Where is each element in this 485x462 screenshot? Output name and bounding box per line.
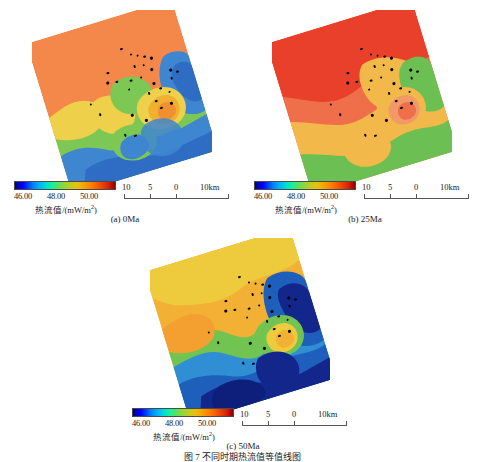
panel-b: 46.00 48.00 50.00 热流值/(mW/m2) 10 5 0 10k… [250, 6, 480, 236]
colorbar-gradient [132, 408, 234, 417]
panel-c-contour-surface [150, 238, 330, 413]
panel-b-scalebar: 10 5 0 10km [362, 182, 472, 200]
panel-a-contour-surface [32, 10, 212, 185]
panel-c-colorbar: 46.00 48.00 50.00 热流值/(mW/m2) [132, 408, 236, 442]
panel-a-caption: (a) 0Ma [10, 214, 240, 224]
scalebar-label-1: 5 [148, 182, 152, 192]
scalebar-ruler [362, 194, 472, 200]
scalebar-label-0: 10 [362, 182, 371, 192]
panel-c: 46.00 48.00 50.00 热流值/(mW/m2) 10 5 0 10k… [128, 236, 358, 458]
panel-c-scalebar: 10 5 0 10km [240, 409, 350, 427]
scalebar-label-3: 10km [318, 409, 337, 419]
panel-b-map [272, 10, 452, 185]
scalebar-labels: 10 5 0 10km [122, 182, 232, 193]
scalebar-label-3: 10km [440, 182, 459, 192]
colorbar-ticks: 46.00 48.00 50.00 [132, 418, 236, 430]
colorbar-tick-1: 48.00 [47, 191, 65, 201]
panel-a: 46.00 48.00 50.00 热流值/(mW/m2) 10 5 0 10k… [10, 6, 240, 236]
colorbar-tick-0: 46.00 [254, 191, 272, 201]
scalebar-ruler [240, 421, 350, 427]
panel-a-scalebar: 10 5 0 10km [122, 182, 232, 200]
panel-a-map [32, 10, 212, 185]
figure-caption: 图 7 不同时期热流值等值线图 [0, 450, 485, 462]
panel-b-colorbar: 46.00 48.00 50.00 热流值/(mW/m2) [254, 181, 358, 215]
colorbar-gradient [254, 181, 356, 190]
panel-b-contour-surface [272, 10, 452, 185]
colorbar-tick-0: 46.00 [132, 418, 150, 428]
scalebar-label-0: 10 [240, 409, 249, 419]
scalebar-ruler [122, 194, 232, 200]
colorbar-tick-1: 48.00 [287, 191, 305, 201]
colorbar-tick-2: 50.00 [80, 191, 98, 201]
colorbar-tick-0: 46.00 [14, 191, 32, 201]
colorbar-tick-2: 50.00 [320, 191, 338, 201]
colorbar-ticks: 46.00 48.00 50.00 [14, 191, 118, 203]
scalebar-labels: 10 5 0 10km [362, 182, 472, 193]
scalebar-label-0: 10 [122, 182, 131, 192]
scalebar-label-2: 0 [414, 182, 418, 192]
scalebar-label-1: 5 [388, 182, 392, 192]
scalebar-label-2: 0 [292, 409, 296, 419]
panel-b-caption: (b) 25Ma [250, 214, 480, 224]
scalebar-label-3: 10km [200, 182, 219, 192]
colorbar-gradient [14, 181, 116, 190]
colorbar-tick-1: 48.00 [165, 418, 183, 428]
scalebar-labels: 10 5 0 10km [240, 409, 350, 420]
panel-c-map [150, 238, 330, 413]
scalebar-label-1: 5 [266, 409, 270, 419]
scalebar-label-2: 0 [174, 182, 178, 192]
colorbar-tick-2: 50.00 [198, 418, 216, 428]
colorbar-ticks: 46.00 48.00 50.00 [254, 191, 358, 203]
panel-a-colorbar: 46.00 48.00 50.00 热流值/(mW/m2) [14, 181, 118, 215]
